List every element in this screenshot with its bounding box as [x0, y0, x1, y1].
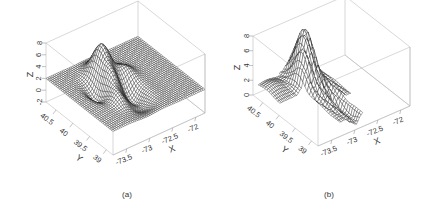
z-axis: 02468Z	[232, 34, 253, 97]
z-axis: -202468Z	[25, 41, 46, 105]
z-tick-label: 2	[242, 78, 251, 82]
z-tick-label: 4	[35, 65, 44, 69]
z-tick-label: 6	[35, 53, 44, 57]
x-axis: -73.5-73-72.5-72X	[319, 110, 404, 158]
z-tick-label: -2	[35, 99, 44, 106]
z-axis-title: Z	[232, 64, 242, 70]
plot-box	[253, 0, 410, 146]
y-axis-title: Y	[74, 152, 85, 164]
y-tick-label: 40	[264, 118, 276, 130]
x-tick-label: -72	[391, 115, 404, 127]
y-tick-label: 39	[91, 153, 103, 165]
z-tick-label: 8	[35, 41, 44, 45]
surface-mesh	[258, 30, 362, 125]
x-tick-label: -73	[345, 135, 358, 147]
x-tick-label: -73.5	[319, 144, 338, 159]
z-tick-label: 0	[35, 88, 44, 92]
y-tick-label: 39.5	[72, 137, 89, 153]
plot-panel-b: 02468Z40.54039.539Y-73.5-73-72.5-72X (b)	[219, 0, 438, 213]
z-axis-title: Z	[25, 71, 35, 77]
z-tick-label: 4	[242, 63, 251, 67]
surface-plot-a: -202468Z40.54039.539Y-73.5-73-72.5-72X	[0, 0, 219, 213]
z-tick-label: 6	[242, 49, 251, 53]
z-tick-label: 2	[35, 76, 44, 80]
surface-plot-b: 02468Z40.54039.539Y-73.5-73-72.5-72X	[219, 0, 438, 213]
y-axis-title: Y	[279, 144, 290, 156]
x-tick-label: -73.5	[114, 152, 133, 167]
surface-mesh	[46, 36, 205, 131]
x-axis-title: X	[167, 143, 176, 155]
x-tick-label: -72	[186, 122, 199, 134]
y-tick-label: 39	[296, 144, 308, 156]
caption-b: (b)	[314, 190, 344, 199]
y-tick-label: 40.5	[39, 111, 56, 127]
plot-panel-a: -202468Z40.54039.539Y-73.5-73-72.5-72X (…	[0, 0, 219, 213]
x-tick-label: -73	[140, 143, 153, 155]
caption-a: (a)	[112, 190, 142, 199]
z-tick-label: 0	[242, 93, 251, 97]
y-tick-label: 39.5	[278, 129, 295, 145]
y-axis: 40.54039.539Y	[245, 103, 311, 156]
z-tick-label: 8	[242, 34, 251, 38]
y-tick-label: 40	[58, 126, 70, 138]
y-tick-label: 40.5	[245, 104, 262, 120]
x-axis-title: X	[372, 135, 381, 147]
